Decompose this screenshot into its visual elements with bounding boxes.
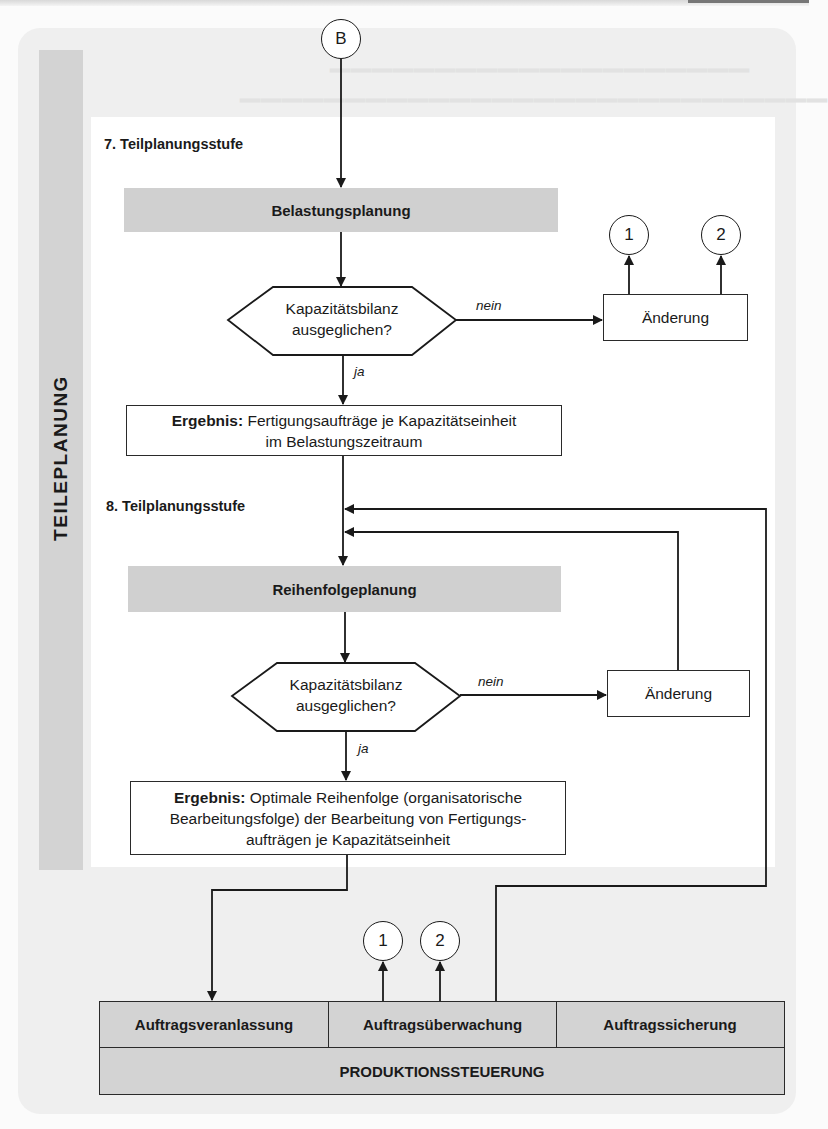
- result-1-bold: Ergebnis:: [172, 412, 243, 429]
- change-box-1: Änderung: [603, 294, 748, 341]
- result-1-text1: Fertigungsaufträge je Kapazitätseinheit: [247, 412, 516, 429]
- result-2-line1: Ergebnis: Optimale Reihenfolge (organisa…: [174, 787, 522, 808]
- result-2-text1: Optimale Reihenfolge (organisatorische: [250, 789, 522, 806]
- production-control-block: Auftragsveranlassung Auftragsüberwachung…: [99, 1001, 785, 1095]
- edge-label-yes-1: ja: [354, 364, 365, 379]
- result-2-bold: Ergebnis:: [174, 789, 245, 806]
- stage-7-title: 7. Teilplanungsstufe: [104, 136, 243, 152]
- connector-2-bottom: 2: [420, 921, 460, 961]
- decision-1-line2: ausgeglichen?: [228, 319, 456, 340]
- result-box-1: Ergebnis: Fertigungsaufträge je Kapazitä…: [126, 405, 562, 456]
- decision-1-text: Kapazitätsbilanz ausgeglichen?: [228, 298, 456, 340]
- connector-1-bottom: 1: [363, 921, 403, 961]
- edge-label-no-1: nein: [476, 298, 502, 313]
- decision-2-text: Kapazitätsbilanz ausgeglichen?: [232, 674, 460, 716]
- connector-1-top: 1: [609, 215, 649, 255]
- result-box-2: Ergebnis: Optimale Reihenfolge (organisa…: [130, 781, 566, 855]
- change-box-2: Änderung: [607, 670, 750, 717]
- cell-auftragssicherung: Auftragssicherung: [557, 1002, 783, 1047]
- stage-8-title: 8. Teilplanungsstufe: [106, 498, 245, 514]
- result-2-line2: Bearbeitungsfolge) der Bearbeitung von F…: [170, 808, 527, 829]
- decision-2-line1: Kapazitätsbilanz: [232, 674, 460, 695]
- connector-b: B: [321, 19, 361, 59]
- result-1-line2: im Belastungszeitraum: [266, 431, 423, 452]
- process-reihenfolgeplanung: Reihenfolgeplanung: [128, 566, 561, 612]
- production-control-title: PRODUKTIONSSTEUERUNG: [100, 1047, 784, 1094]
- process-belastungsplanung: Belastungsplanung: [124, 188, 558, 232]
- edge-label-yes-2: ja: [358, 741, 369, 756]
- result-2-line3: aufträgen je Kapazitätseinheit: [246, 829, 450, 850]
- cell-auftragsueberwachung: Auftragsüberwachung: [329, 1002, 557, 1047]
- cell-auftragsveranlassung: Auftragsveranlassung: [100, 1002, 329, 1047]
- edge-label-no-2: nein: [478, 674, 504, 689]
- result-1-line1: Ergebnis: Fertigungsaufträge je Kapazitä…: [172, 410, 517, 431]
- connector-2-top: 2: [701, 215, 741, 255]
- decision-1-line1: Kapazitätsbilanz: [228, 298, 456, 319]
- decision-2-line2: ausgeglichen?: [232, 695, 460, 716]
